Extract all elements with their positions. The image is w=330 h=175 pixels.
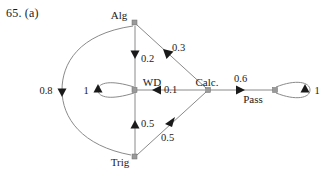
node-calc[interactable]	[206, 88, 211, 93]
node-wd[interactable]	[132, 88, 137, 93]
edge-weight-alg-wd: 0.2	[141, 53, 154, 64]
self-loop-weight-wd: 1	[83, 85, 88, 96]
node-label-wd: WD	[143, 76, 161, 88]
edge-weight-calc-trig: 0.5	[161, 132, 174, 143]
arrowhead-trig-wd	[131, 120, 140, 129]
graph-diagram: Alg WD Trig Calc. Pass 0.2 0.3 0.1 0.5 0…	[0, 0, 330, 175]
node-pass[interactable]	[273, 88, 278, 93]
arrowhead-alg-wd	[131, 51, 140, 60]
edge-weight-calc-wd: 0.1	[164, 84, 177, 95]
arrowhead-calc-trig	[165, 117, 175, 127]
self-loop-wd	[98, 83, 134, 98]
self-loop-weight-pass: 1	[314, 85, 319, 96]
edge-weight-alg-trig: 0.8	[39, 85, 52, 96]
node-label-alg: Alg	[111, 9, 128, 21]
edge-weight-calc-pass: 0.6	[234, 73, 247, 84]
edge-weight-trig-wd: 0.5	[141, 118, 154, 129]
node-label-trig: Trig	[111, 156, 130, 168]
edge-weight-calc-alg: 0.3	[172, 42, 185, 53]
arrowhead-alg-trig	[58, 89, 67, 98]
node-label-calc: Calc.	[196, 76, 219, 88]
figure-canvas: 65. (a) Alg	[0, 0, 330, 175]
node-alg[interactable]	[132, 20, 137, 25]
node-trig[interactable]	[132, 154, 137, 159]
node-label-pass: Pass	[243, 93, 263, 105]
